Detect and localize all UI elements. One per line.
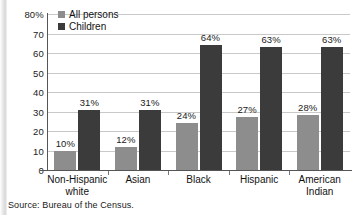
bar-all-persons xyxy=(297,115,319,170)
bar-value-label: 63% xyxy=(315,34,349,45)
bar-value-label: 28% xyxy=(291,102,325,113)
bar-value-label: 63% xyxy=(254,34,288,45)
chart-legend: All persons Children xyxy=(58,9,118,32)
source-note: Source: Bureau of the Census. xyxy=(8,200,134,210)
y-axis-tick-label: 10 xyxy=(2,145,44,156)
category-label-line: American xyxy=(283,174,357,186)
category-label-line: white xyxy=(40,186,114,198)
bar-all-persons xyxy=(115,147,137,170)
bar-children xyxy=(260,47,282,170)
y-axis-tick-label: 70 xyxy=(2,28,44,39)
bar-group: 12%31% xyxy=(115,14,161,170)
bar-value-label: 64% xyxy=(194,32,228,43)
legend-swatch-icon-children xyxy=(58,23,65,30)
bar-value-label: 27% xyxy=(230,104,264,115)
legend-label-all-persons: All persons xyxy=(69,9,118,21)
bar-value-label: 10% xyxy=(48,138,82,149)
category-label: AmericanIndian xyxy=(283,174,357,197)
y-axis-tick-label: 20 xyxy=(2,126,44,137)
y-axis-tick-label: 60 xyxy=(2,48,44,59)
legend-label-children: Children xyxy=(69,21,106,33)
plot-area: 10%31%12%31%24%64%27%63%28%63% xyxy=(47,14,350,170)
bar-group: 27%63% xyxy=(236,14,282,170)
bar-children xyxy=(139,110,161,170)
bar-all-persons xyxy=(54,151,76,171)
bar-value-label: 12% xyxy=(109,134,143,145)
x-axis-line xyxy=(40,170,352,171)
bar-all-persons xyxy=(176,123,198,170)
category-label-line: Indian xyxy=(283,186,357,198)
y-axis-line xyxy=(47,13,48,171)
y-axis-tick-label: 50 xyxy=(2,67,44,78)
legend-item-all-persons: All persons xyxy=(58,9,118,21)
legend-swatch-icon-all-persons xyxy=(58,11,65,18)
bar-group: 24%64% xyxy=(176,14,222,170)
bar-chart: 80%706050403020100 10%31%12%31%24%64%27%… xyxy=(0,0,357,215)
bar-group: 10%31% xyxy=(54,14,100,170)
y-axis-tick-label: 80% xyxy=(2,9,44,20)
bar-value-label: 24% xyxy=(170,110,204,121)
bar-children xyxy=(78,110,100,170)
bar-children xyxy=(200,45,222,170)
bar-children xyxy=(321,47,343,170)
bar-all-persons xyxy=(236,117,258,170)
bar-group: 28%63% xyxy=(297,14,343,170)
legend-item-children: Children xyxy=(58,21,118,33)
y-axis-labels: 80%706050403020100 xyxy=(0,0,44,215)
y-axis-tick-label: 40 xyxy=(2,87,44,98)
y-axis-tick-label: 0 xyxy=(2,165,44,176)
y-axis-tick-label: 30 xyxy=(2,106,44,117)
bar-value-label: 31% xyxy=(133,97,167,108)
bar-value-label: 31% xyxy=(72,97,106,108)
